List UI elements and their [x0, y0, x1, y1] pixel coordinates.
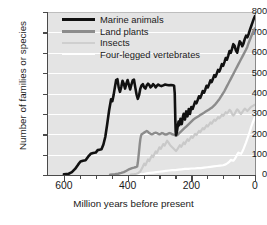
- legend-swatch-icon: [62, 18, 95, 21]
- x-tick-label: 200: [171, 180, 211, 191]
- legend-swatch-icon: [62, 42, 95, 44]
- x-tick-minor: [112, 176, 113, 179]
- legend-swatch-icon: [62, 53, 95, 55]
- legend-label: Four-legged vertebrates: [100, 49, 200, 60]
- legend-item: Land plants: [62, 26, 200, 38]
- legend-item: Four-legged vertebrates: [62, 49, 200, 61]
- x-tick-label: 0: [235, 180, 267, 191]
- x-tick-minor: [96, 176, 97, 179]
- legend-label: Marine animals: [100, 14, 164, 25]
- x-tick-label: 400: [108, 180, 148, 191]
- legend-item: Insects: [62, 37, 200, 49]
- y-axis-label: Number of families or species: [17, 1, 28, 171]
- x-tick-label: 600: [44, 180, 84, 191]
- series-line-insects: [131, 105, 255, 175]
- x-tick-minor: [175, 176, 176, 179]
- x-axis-label: Million years before present: [0, 198, 267, 209]
- legend-swatch-icon: [62, 30, 95, 33]
- x-tick-minor: [223, 176, 224, 179]
- x-tick-minor: [144, 176, 145, 179]
- legend-item: Marine animals: [62, 14, 200, 26]
- y-tick-mark: [43, 175, 48, 176]
- x-tick-minor: [207, 176, 208, 179]
- legend-label: Insects: [100, 37, 130, 48]
- x-tick-minor: [239, 176, 240, 179]
- x-tick-minor: [80, 176, 81, 179]
- biodiversity-line-chart: 0100200300400500600700800 6004002000 Num…: [0, 0, 267, 225]
- legend: Marine animalsLand plantsInsectsFour-leg…: [62, 14, 200, 60]
- x-tick-minor: [159, 176, 160, 179]
- series-line-four-legged-vertebrates: [137, 117, 255, 175]
- legend-label: Land plants: [100, 26, 148, 37]
